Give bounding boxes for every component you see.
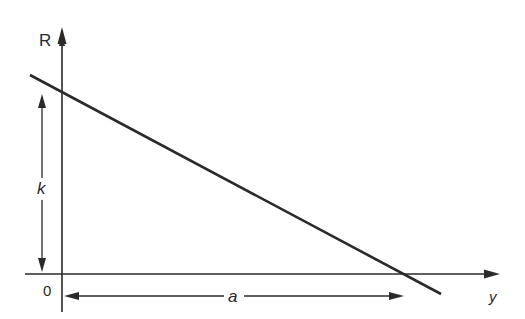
r-axis-label: R [39, 31, 51, 50]
y-axis-arrowhead-icon [484, 270, 500, 279]
a-arrow-left-icon [64, 292, 79, 300]
k-label: k [37, 179, 47, 198]
a-label: a [228, 287, 237, 306]
k-arrow-down-icon [38, 258, 46, 272]
a-arrow-right-icon [389, 292, 404, 300]
regression-line [30, 75, 441, 294]
origin-label: 0 [43, 282, 51, 299]
y-axis-label: y [488, 288, 498, 305]
diagram-canvas: R y 0 k a [0, 0, 525, 319]
k-arrow-up-icon [38, 94, 46, 108]
r-axis-arrowhead-icon [58, 27, 67, 44]
